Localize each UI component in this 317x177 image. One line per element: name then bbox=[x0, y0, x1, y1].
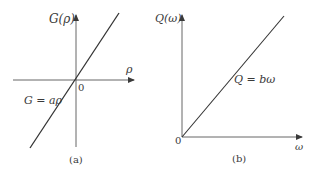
panel-a-x-axis-label: ρ bbox=[126, 64, 132, 75]
panel-b-y-axis-label: Q(ω) bbox=[155, 13, 182, 24]
panel-a-y-axis-label: G(ρ) bbox=[49, 13, 75, 25]
panel-a-plot bbox=[13, 13, 134, 148]
panel-a-caption: (a) bbox=[69, 155, 83, 165]
panel-b-origin-label: 0 bbox=[175, 136, 181, 146]
panel-b-x-axis-label: ω bbox=[295, 142, 303, 152]
panel-a-origin-label: 0 bbox=[78, 83, 84, 93]
figure-canvas bbox=[0, 0, 317, 177]
panel-a-line bbox=[30, 13, 119, 148]
panel-a-line-label: G = aρ bbox=[24, 95, 62, 106]
panel-b-line-label: Q = bω bbox=[234, 74, 275, 85]
panel-b-caption: (b) bbox=[232, 154, 246, 164]
